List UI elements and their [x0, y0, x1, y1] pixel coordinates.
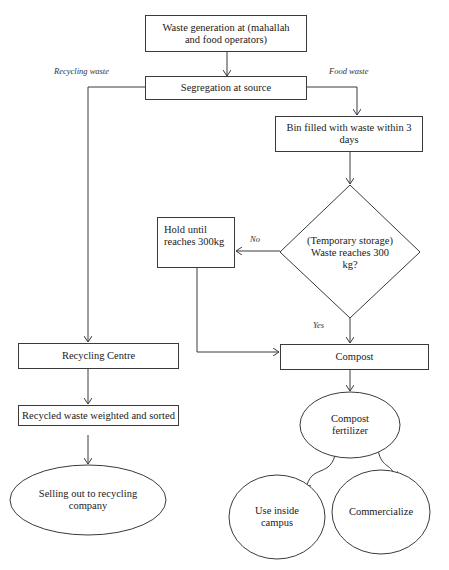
node-decision-text: (Temporary storage) Waste reaches 300 kg…: [300, 235, 400, 271]
node-hold: Hold until reaches 300kg: [157, 217, 235, 268]
node-decision-text-wrap: (Temporary storage) Waste reaches 300 kg…: [300, 222, 400, 284]
node-recycling-centre-text: Recycling Centre: [62, 350, 135, 362]
arrow-segregation-to-bin: [306, 87, 357, 115]
label-no: No: [250, 234, 260, 244]
label-recycling-waste: Recycling waste: [54, 66, 109, 76]
arrow-hold-to-compost: [197, 267, 279, 352]
node-recycled-sorted: Recycled waste weighted and sorted: [18, 405, 179, 426]
node-use-inside: Use inside campus: [245, 497, 309, 537]
node-recycled-sorted-text: Recycled waste weighted and sorted: [22, 410, 175, 422]
node-compost-text: Compost: [336, 351, 374, 363]
node-hold-text: Hold until reaches 300kg: [158, 218, 234, 254]
node-selling: Selling out to recycling company: [25, 480, 151, 520]
label-yes: Yes: [313, 320, 324, 330]
node-compost-fertilizer-text: Compost fertilizer: [315, 413, 385, 437]
arrow-segregation-to-recycling-centre: [88, 87, 145, 342]
node-segregation: Segregation at source: [145, 76, 307, 100]
node-bin-filled: Bin filled with waste within 3 days: [275, 116, 423, 152]
node-waste-generation-text: Waste generation at (mahallah and food o…: [146, 22, 306, 46]
node-commercialize: Commercialize: [336, 497, 426, 527]
node-commercialize-text: Commercialize: [349, 506, 413, 518]
node-segregation-text: Segregation at source: [181, 82, 271, 94]
node-selling-text: Selling out to recycling company: [25, 488, 151, 512]
node-bin-filled-text: Bin filled with waste within 3 days: [276, 122, 422, 146]
node-recycling-centre: Recycling Centre: [18, 343, 179, 369]
node-compost: Compost: [280, 344, 429, 370]
node-use-inside-text: Use inside campus: [245, 505, 309, 529]
label-food-waste: Food waste: [329, 66, 368, 76]
node-compost-fertilizer: Compost fertilizer: [315, 405, 385, 445]
node-waste-generation: Waste generation at (mahallah and food o…: [145, 15, 307, 52]
